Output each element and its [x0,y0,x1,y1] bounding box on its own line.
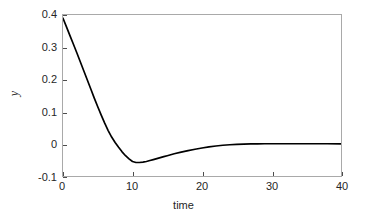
figure-canvas: y 0.4 0.3 0.2 0.1 0 -0.1 0 10 20 30 40 t… [0,0,367,219]
ytick-label: 0 [51,139,57,150]
ytick-label: 0.2 [42,74,57,85]
xtick-label: 40 [336,181,348,192]
xtick-label: 0 [59,181,65,192]
ytick-label: 0.4 [42,9,57,20]
xtick-label: 20 [196,181,208,192]
ytick-mark [63,177,67,178]
xtick-label: 30 [266,181,278,192]
data-curve [63,15,341,176]
x-axis-label: time [0,199,367,211]
ytick-label: 0.1 [42,107,57,118]
y-axis-tick-labels: 0.4 0.3 0.2 0.1 0 -0.1 [0,0,57,219]
xtick-label: 10 [126,181,138,192]
plot-area [62,14,342,177]
ytick-label: 0.3 [42,42,57,53]
xtick-mark [342,172,343,176]
ytick-label: -0.1 [38,172,57,183]
